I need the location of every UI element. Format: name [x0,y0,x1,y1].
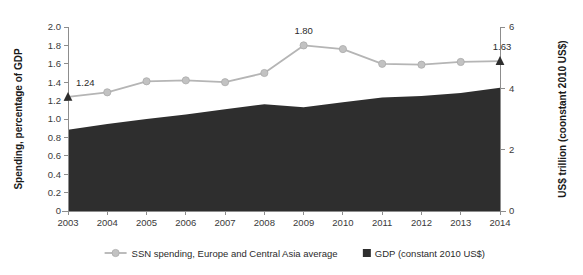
ssn-spending-data-point [182,77,189,84]
left-axis-title: Spending, percentage of GDP [13,48,24,189]
left-tick-label: 2.0 [48,21,61,32]
area-line-combo-chart: 2003200420052006200720082009201020112012… [0,0,583,275]
legend-ssn-spending[interactable]: SSN spending, Europe and Central Asia av… [105,248,338,259]
left-tick-label: 1.4 [48,77,61,88]
x-tick-label: 2003 [57,217,78,228]
legend-label-ssn-spending: SSN spending, Europe and Central Asia av… [132,248,338,259]
legend-square-swatch [363,249,371,257]
left-tick-label: 0.8 [48,132,61,143]
left-tick-label: 1.6 [48,58,61,69]
left-tick-label: 1.2 [48,95,61,106]
left-tick-label: 1.0 [48,113,61,124]
x-tick-label: 2011 [372,217,392,228]
ssn-spending-data-point [104,89,111,96]
first-point-label: 1.24 [76,77,95,88]
ssn-spending-data-point [379,60,386,67]
right-tick-label: 4 [509,83,514,94]
x-tick-label: 2005 [136,217,157,228]
left-tick-label: 0.4 [48,169,61,180]
ssn-spending-data-point [221,79,228,86]
x-tick-label: 2013 [450,217,471,228]
right-tick-label: 0 [509,205,514,216]
ssn-spending-data-point [339,45,346,52]
x-tick-label: 2014 [489,217,510,228]
x-tick-label: 2004 [97,217,118,228]
right-axis-title: US$ trillion (coonstant 2010 US$) [557,40,568,197]
chart-container: 2003200420052006200720082009201020112012… [0,0,583,275]
legend-gdp[interactable]: GDP (constant 2010 US$) [363,248,485,259]
x-tick-label: 2006 [175,217,196,228]
chart-legend: SSN spending, Europe and Central Asia av… [105,248,485,259]
ssn-spending-data-point [457,58,464,65]
ssn-spending-data-point [418,61,425,68]
x-tick-label: 2010 [332,217,353,228]
ssn-spending-data-point [261,69,268,76]
right-tick-label: 2 [509,144,514,155]
left-tick-label: 0 [56,205,61,216]
x-tick-label: 2008 [254,217,275,228]
ssn-spending-data-point [300,42,307,49]
ssn-spending-data-point [143,78,150,85]
x-tick-label: 2012 [411,217,432,228]
legend-circle-marker [112,249,119,256]
right-tick-label: 6 [509,21,514,32]
last-point-label: 1.63 [493,41,512,52]
legend-label-gdp: GDP (constant 2010 US$) [375,248,485,259]
peak-point-label: 1.80 [294,25,313,36]
left-tick-label: 1.8 [48,40,61,51]
left-tick-label: 0.2 [48,187,61,198]
left-tick-label: 0.6 [48,150,61,161]
x-tick-label: 2007 [215,217,236,228]
x-tick-label: 2009 [293,217,314,228]
